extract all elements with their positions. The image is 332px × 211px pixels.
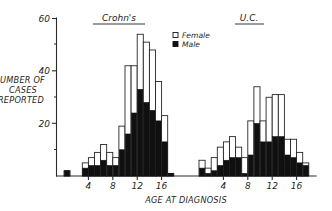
chart-figure: 60 40 20 NUMBER OF CASES REPORTED Crohn'… <box>0 0 332 211</box>
bar-male <box>156 121 161 176</box>
bar-male <box>95 166 100 177</box>
legend: Female Male <box>173 31 210 49</box>
bar-male <box>218 166 223 177</box>
y-axis-title-line-2: CASES <box>9 85 37 95</box>
bar-male <box>101 160 106 176</box>
y-axis-title: NUMBER OF CASES REPORTED <box>0 75 45 105</box>
y-tick-label-60: 60 <box>39 14 51 24</box>
bar-male <box>254 124 259 177</box>
legend-label-male: Male <box>182 40 200 49</box>
histogram-svg: 60 40 20 NUMBER OF CASES REPORTED Crohn'… <box>0 0 332 211</box>
bar-male <box>230 158 235 176</box>
x-axis-crohns: 481216 <box>86 176 168 191</box>
x-tick-label: 4 <box>221 181 227 191</box>
bar-male <box>64 171 69 176</box>
bar-male <box>279 137 284 176</box>
x-axis-uc: 481216 <box>221 176 303 191</box>
bar-male <box>125 134 130 176</box>
bar-male <box>162 142 167 176</box>
bar-male <box>206 173 211 176</box>
bar-male <box>168 173 173 176</box>
bar-male <box>291 158 296 176</box>
panel-title-crohns-text: Crohn's <box>102 13 136 23</box>
bar-male <box>132 113 137 176</box>
x-axis-title: AGE AT DIAGNOSIS <box>144 195 227 205</box>
y-axis-title-line-3: REPORTED <box>0 95 44 105</box>
bar-male <box>144 103 149 177</box>
bar-male <box>212 171 217 176</box>
x-tick-label: 4 <box>86 181 92 191</box>
bar-male <box>138 89 143 176</box>
legend-swatch-female-icon <box>173 33 178 38</box>
bar-male <box>83 168 88 176</box>
bar-male <box>267 142 272 176</box>
bar-male <box>107 166 112 177</box>
bar-male <box>224 160 229 176</box>
bar-male <box>119 150 124 176</box>
y-tick-label-20: 20 <box>39 119 51 129</box>
x-tick-label: 12 <box>131 181 143 191</box>
bar-male <box>285 155 290 176</box>
bars-crohns <box>64 34 174 176</box>
bar-male <box>248 155 253 176</box>
legend-label-female: Female <box>182 31 210 40</box>
bar-male <box>199 168 204 176</box>
bar-male <box>242 173 247 176</box>
bar-male <box>150 110 155 176</box>
y-axis-title-line-1: NUMBER OF <box>0 75 45 85</box>
bar-male <box>113 166 118 177</box>
panel-title-uc-text: U.C. <box>240 13 259 23</box>
bar-male <box>89 166 94 177</box>
bar-male <box>273 137 278 176</box>
x-tick-label: 8 <box>110 181 116 191</box>
bars-uc <box>199 87 309 176</box>
panel-title-uc: U.C. <box>235 13 264 24</box>
bar-male <box>236 158 241 176</box>
x-tick-label: 12 <box>266 181 278 191</box>
bar-male <box>303 166 308 177</box>
x-tick-label: 8 <box>245 181 251 191</box>
x-tick-label: 16 <box>156 181 168 191</box>
panel-title-crohns: Crohn's <box>93 13 145 24</box>
x-tick-label: 16 <box>291 181 303 191</box>
legend-swatch-male-icon <box>173 42 178 47</box>
bar-male <box>260 142 265 176</box>
bar-male <box>297 163 302 176</box>
